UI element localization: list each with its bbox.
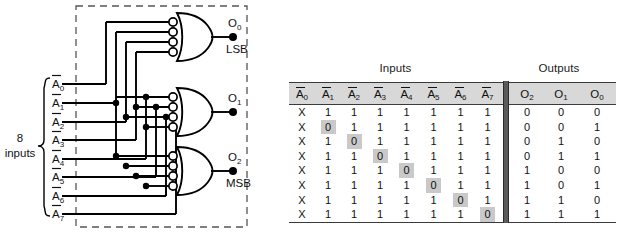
cell-value: 1 xyxy=(321,163,336,178)
svg-text:A4: A4 xyxy=(52,153,65,168)
cell-output-o1: 1 xyxy=(544,134,578,149)
col-header-a4: A4 xyxy=(393,83,420,105)
cell-input-a1: 1 xyxy=(315,105,341,120)
cell-value: 1 xyxy=(480,149,495,164)
cell-input-a7: 1 xyxy=(474,105,501,120)
column-separator xyxy=(501,207,510,222)
table-row: X1111110111 xyxy=(289,207,616,222)
cell-value: 0 xyxy=(590,163,605,178)
cell-input-a6: 1 xyxy=(447,149,474,164)
truth-table: Inputs Outputs A0 A1 A2 A3 A4 A5 A6 A7 O… xyxy=(289,60,616,225)
svg-text:A1: A1 xyxy=(52,97,65,112)
cell-input-a4: 1 xyxy=(393,149,420,164)
cell-input-a5: 1 xyxy=(420,193,447,208)
cell-output-o2: 1 xyxy=(510,193,544,208)
cell-input-a0: X xyxy=(289,105,315,120)
cell-input-a2: 1 xyxy=(341,163,367,178)
cell-output-o2: 0 xyxy=(510,105,544,120)
cell-input-a5: 1 xyxy=(420,207,447,222)
table-row: X1111111000 xyxy=(289,105,616,120)
cell-output-o1: 1 xyxy=(544,193,578,208)
inputs-brace xyxy=(38,78,50,216)
cell-value: 0 xyxy=(590,134,605,149)
col-header-a6: A6 xyxy=(447,83,474,105)
cell-output-o0: 1 xyxy=(578,120,616,135)
table-row: X0111111001 xyxy=(289,120,616,135)
cell-value: 1 xyxy=(480,193,495,208)
col-header-a1: A1 xyxy=(315,83,341,105)
cell-value: 1 xyxy=(321,193,336,208)
cell-value: 1 xyxy=(590,149,605,164)
cell-input-a0: X xyxy=(289,193,315,208)
cell-value: 1 xyxy=(373,163,388,178)
cell-output-o0: 0 xyxy=(578,105,616,120)
cell-input-a6: 1 xyxy=(447,163,474,178)
cell-value: 1 xyxy=(480,163,495,178)
cell-value: 1 xyxy=(373,134,388,149)
cell-value: 1 xyxy=(321,149,336,164)
cell-value: 0 xyxy=(554,105,569,120)
cell-input-a7: 1 xyxy=(474,193,501,208)
column-separator xyxy=(501,178,510,193)
cell-input-a3: 1 xyxy=(367,193,393,208)
cell-value: 1 xyxy=(373,207,388,222)
cell-input-a3: 1 xyxy=(367,134,393,149)
cell-input-a4: 1 xyxy=(393,120,420,135)
cell-output-o1: 0 xyxy=(544,178,578,193)
cell-value: 0 xyxy=(554,178,569,193)
cell-value: 1 xyxy=(453,149,468,164)
cell-input-a2: 1 xyxy=(341,105,367,120)
cell-value: 1 xyxy=(554,193,569,208)
cell-output-o1: 0 xyxy=(544,105,578,120)
cell-input-a1: 1 xyxy=(315,207,341,222)
cell-value: 1 xyxy=(453,178,468,193)
cell-value: 1 xyxy=(399,178,414,193)
cell-value: 1 xyxy=(321,105,336,120)
cell-value: X xyxy=(295,163,310,178)
group-title-inputs: Inputs xyxy=(289,62,502,74)
cell-value: 1 xyxy=(554,207,569,222)
cell-value: 1 xyxy=(426,193,441,208)
cell-value: 1 xyxy=(520,178,535,193)
cell-value: 1 xyxy=(520,207,535,222)
output-label-o1: O1 xyxy=(228,92,242,107)
inputs-count-line1: 8 xyxy=(17,132,23,144)
svg-text:A0: A0 xyxy=(52,78,65,93)
cell-value: 1 xyxy=(347,178,362,193)
cell-value: 1 xyxy=(590,120,605,135)
cell-value: 1 xyxy=(426,149,441,164)
cell-value: X xyxy=(295,193,310,208)
col-header-o0: O0 xyxy=(578,83,616,105)
cell-value: 1 xyxy=(480,120,495,135)
output-node-o0 xyxy=(229,33,237,41)
cell-input-a1: 1 xyxy=(315,178,341,193)
cell-output-o0: 0 xyxy=(578,134,616,149)
cell-input-a6: 1 xyxy=(447,178,474,193)
cell-input-a0: X xyxy=(289,120,315,135)
cell-output-o2: 1 xyxy=(510,178,544,193)
cell-output-o0: 0 xyxy=(578,163,616,178)
cell-value: 1 xyxy=(373,178,388,193)
output-node-o1 xyxy=(229,108,237,116)
cell-value: 1 xyxy=(347,193,362,208)
cell-input-a7: 1 xyxy=(474,149,501,164)
cell-output-o2: 1 xyxy=(510,163,544,178)
wire-junctions xyxy=(113,94,169,189)
cell-value: 1 xyxy=(426,207,441,222)
cell-value: 1 xyxy=(590,178,605,193)
output-note-lsb: LSB xyxy=(226,43,248,55)
cell-value: 1 xyxy=(426,120,441,135)
cell-value: 1 xyxy=(554,149,569,164)
table-header-row: A0 A1 A2 A3 A4 A5 A6 A7 O2 O1 O0 xyxy=(289,83,616,105)
output-node-o2 xyxy=(229,167,237,175)
cell-output-o0: 1 xyxy=(578,178,616,193)
cell-value: 1 xyxy=(399,105,414,120)
column-separator xyxy=(501,83,510,105)
cell-value: 0 xyxy=(520,134,535,149)
cell-value: 1 xyxy=(347,120,362,135)
cell-value: X xyxy=(295,105,310,120)
col-header-a3: A3 xyxy=(367,83,393,105)
cell-value: 1 xyxy=(480,178,495,193)
cell-input-a2: 1 xyxy=(341,149,367,164)
circuit-diagram: A0 A1 A2 A3 A4 A5 A6 A7 8 inputs O0 LSB … xyxy=(0,0,286,236)
